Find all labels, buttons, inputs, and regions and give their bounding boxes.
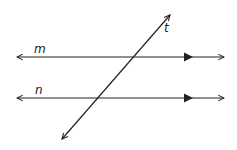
line-m bbox=[17, 53, 224, 62]
label-n: n bbox=[35, 84, 43, 96]
parallel-arrow-icon bbox=[184, 94, 193, 103]
label-t: t bbox=[164, 22, 169, 34]
parallel-arrow-icon bbox=[184, 53, 193, 62]
diagram-canvas bbox=[0, 0, 237, 150]
transversal-t bbox=[62, 15, 170, 139]
label-m: m bbox=[34, 43, 46, 55]
line-n bbox=[17, 94, 224, 103]
